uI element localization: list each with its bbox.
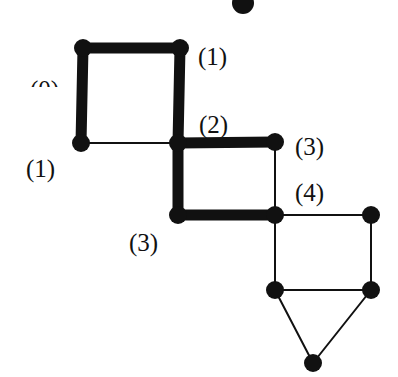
- node-label-4: (4): [295, 180, 324, 205]
- node-label-1-left: (1): [26, 156, 55, 181]
- node-k: [304, 354, 322, 372]
- node-h: [362, 206, 380, 224]
- node-top: [232, 0, 254, 14]
- node-g: [266, 206, 284, 224]
- node-label-2: (2): [199, 112, 228, 137]
- node-i: [266, 281, 284, 299]
- edge-j-k: [313, 290, 371, 363]
- edge-i-k: [275, 290, 313, 363]
- node-j: [362, 281, 380, 299]
- node-label-1-top: (1): [198, 44, 227, 69]
- node-d: [169, 134, 187, 152]
- node-c: [72, 134, 90, 152]
- node-f: [169, 206, 187, 224]
- node-label-3-bottom: (3): [129, 230, 158, 255]
- graph-edges: [81, 48, 371, 363]
- node-a: [74, 39, 92, 57]
- node-e: [266, 133, 284, 151]
- node-label-0: (0): [30, 75, 62, 87]
- node-label-3-right: (3): [295, 134, 324, 159]
- bold-edge-a-c: [81, 48, 83, 143]
- bold-edge-b-d: [178, 48, 180, 143]
- node-b: [171, 39, 189, 57]
- bold-edge-d-e: [178, 142, 275, 143]
